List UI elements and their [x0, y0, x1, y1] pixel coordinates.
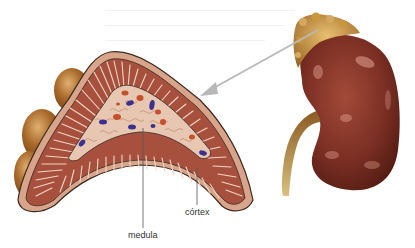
cortex-label: córtex	[185, 208, 210, 217]
medulla-label: medula	[128, 231, 158, 240]
